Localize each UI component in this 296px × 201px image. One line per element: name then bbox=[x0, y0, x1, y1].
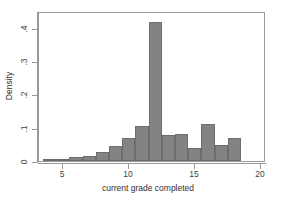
histogram-bar bbox=[109, 146, 122, 161]
y-axis-tick-label-text: 0 bbox=[20, 160, 29, 165]
histogram-bar bbox=[201, 124, 214, 161]
y-axis-tick-label-text: .4 bbox=[20, 25, 29, 32]
histogram-bar bbox=[162, 135, 175, 161]
y-axis-title: Density bbox=[2, 60, 16, 112]
y-axis-tick-label: .3 bbox=[18, 56, 30, 68]
histogram-bar bbox=[96, 152, 109, 161]
x-axis-tick-label: 20 bbox=[247, 170, 273, 179]
histogram-bar bbox=[43, 159, 56, 161]
y-axis-tick-label: 0 bbox=[18, 156, 30, 168]
y-axis-tick-label: .1 bbox=[18, 123, 30, 135]
histogram-bar bbox=[56, 159, 69, 161]
histogram-bar bbox=[122, 138, 135, 161]
x-axis-title: current grade completed bbox=[0, 184, 296, 193]
y-axis-tick bbox=[32, 62, 37, 63]
histogram-bar bbox=[135, 126, 148, 161]
y-axis-tick bbox=[32, 95, 37, 96]
y-axis-tick bbox=[32, 29, 37, 30]
histogram-bar bbox=[149, 22, 162, 161]
y-axis-title-label: Density bbox=[5, 72, 14, 100]
plot-area bbox=[38, 12, 265, 162]
y-axis-tick-label-text: .2 bbox=[20, 91, 29, 98]
x-axis-tick-label: 15 bbox=[181, 170, 207, 179]
y-axis-tick-label: .2 bbox=[18, 89, 30, 101]
y-axis-tick-label-text: .1 bbox=[20, 125, 29, 132]
histogram-bar bbox=[188, 148, 201, 161]
histogram-bar bbox=[175, 134, 188, 161]
x-axis-line bbox=[38, 163, 266, 164]
x-axis-tick-label: 10 bbox=[115, 170, 141, 179]
y-axis-tick bbox=[32, 129, 37, 130]
bars-layer bbox=[39, 13, 264, 161]
y-axis-tick-label-text: .3 bbox=[20, 58, 29, 65]
histogram-figure: 0.1.2.3.4 Density 5101520 current grade … bbox=[0, 0, 296, 201]
histogram-bar bbox=[228, 138, 241, 161]
histogram-bar bbox=[83, 156, 96, 161]
x-axis-tick-label: 5 bbox=[49, 170, 75, 179]
y-axis-tick-label: .4 bbox=[18, 23, 30, 35]
histogram-bar bbox=[215, 145, 228, 161]
y-axis-tick bbox=[32, 162, 37, 163]
histogram-bar bbox=[69, 157, 82, 161]
y-axis-line bbox=[37, 12, 38, 163]
